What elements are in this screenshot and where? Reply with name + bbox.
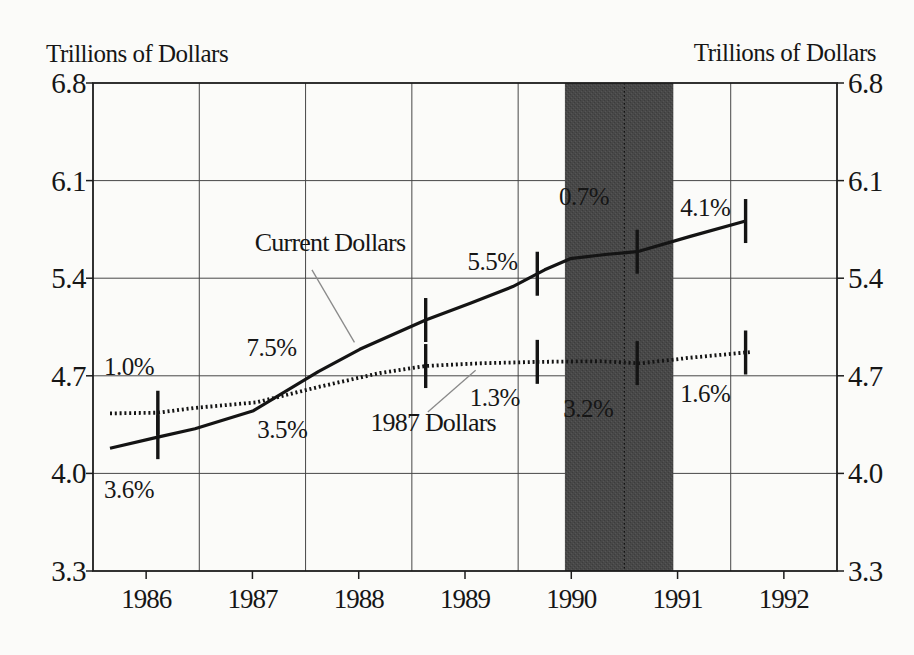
- gdp-chart-page: 6.86.86.16.15.45.44.74.74.04.03.33.31986…: [0, 0, 914, 655]
- y-tick-label-right: 4.7: [848, 360, 883, 392]
- growth-annotation: 3.6%: [104, 476, 154, 503]
- y-tick-label-left: 6.8: [51, 67, 86, 99]
- y-tick-label-right: 4.0: [848, 457, 883, 489]
- y-tick-label-right: 6.1: [848, 165, 883, 197]
- y-tick-label-left: 5.4: [51, 262, 87, 294]
- x-year-label: 1988: [334, 584, 385, 614]
- y-tick-label-right: 3.3: [848, 555, 883, 587]
- y-tick-label-left: 4.0: [51, 457, 86, 489]
- y-tick-label-left: 3.3: [51, 555, 86, 587]
- growth-annotation: 1.0%: [104, 353, 154, 380]
- y-axis-title-right: Trillions of Dollars: [694, 39, 876, 66]
- gdp-line-chart: 6.86.86.16.15.45.44.74.74.04.03.33.31986…: [0, 0, 914, 655]
- y-tick-label-left: 6.1: [51, 165, 86, 197]
- growth-annotation: 4.1%: [680, 194, 730, 221]
- growth-annotation: 3.2%: [563, 395, 613, 422]
- y-axis-title-left: Trillions of Dollars: [46, 40, 228, 67]
- recession-band: [565, 83, 673, 571]
- x-year-label: 1989: [440, 584, 491, 614]
- series-label-1987-dollars: 1987 Dollars: [370, 408, 496, 437]
- growth-annotation: 3.5%: [257, 416, 307, 443]
- growth-annotation: 1.6%: [680, 380, 730, 407]
- y-tick-label-left: 4.7: [51, 360, 86, 392]
- y-tick-label-right: 6.8: [848, 67, 883, 99]
- growth-annotation: 1.3%: [470, 384, 520, 411]
- y-tick-label-right: 5.4: [848, 262, 884, 294]
- x-year-label: 1992: [759, 584, 810, 614]
- series-label-leader-line: [428, 370, 476, 412]
- series-label-current-dollars: Current Dollars: [255, 228, 406, 257]
- series-label-leader-line: [312, 270, 355, 343]
- plot-frame: [93, 83, 837, 571]
- growth-annotation: 5.5%: [468, 248, 518, 275]
- x-year-label: 1987: [227, 584, 278, 614]
- growth-annotation: 7.5%: [247, 334, 297, 361]
- x-year-label: 1990: [546, 584, 597, 614]
- x-year-label: 1991: [653, 584, 703, 614]
- growth-annotation: 0.7%: [559, 183, 609, 210]
- x-year-label: 1986: [121, 584, 172, 614]
